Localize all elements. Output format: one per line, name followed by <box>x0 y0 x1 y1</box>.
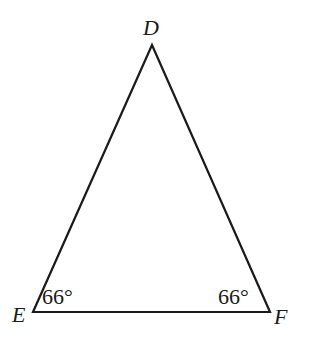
triangle-def <box>33 45 270 312</box>
triangle-diagram: D E F 66° 66° <box>0 0 309 344</box>
vertex-label-f: F <box>273 304 288 329</box>
vertex-label-d: D <box>142 15 159 40</box>
angle-label-f: 66° <box>218 284 249 309</box>
angle-label-e: 66° <box>42 284 73 309</box>
vertex-label-e: E <box>11 302 26 327</box>
